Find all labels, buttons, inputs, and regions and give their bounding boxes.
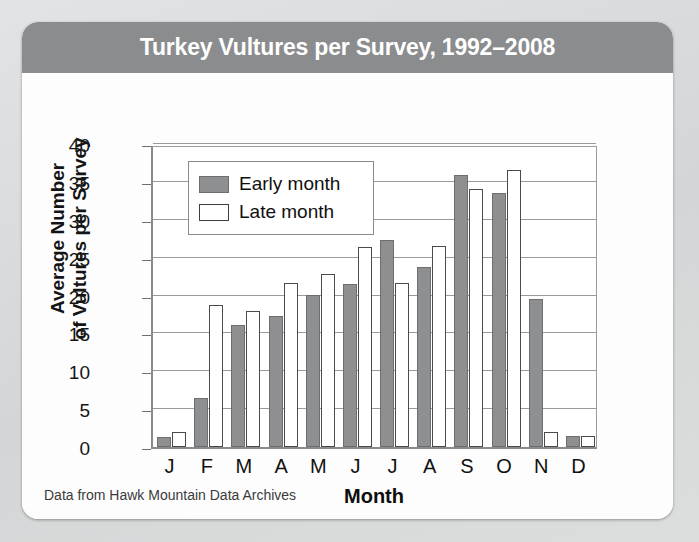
y-axis-title: Average Number of Vultures per Survey	[32, 73, 106, 403]
y-axis-tick-label: 40	[48, 135, 90, 157]
bar-group	[376, 147, 413, 447]
x-axis-tick-label: M	[300, 455, 336, 478]
bar-early-N-10	[529, 299, 543, 447]
y-axis-tick-label: 20	[48, 287, 90, 309]
y-axis-tick-label: 15	[48, 324, 90, 346]
bar-late-J-6	[395, 283, 409, 447]
bar-early-O-9	[492, 193, 506, 447]
y-axis-tick-label: 0	[48, 438, 90, 460]
y-axis-tick-mark	[142, 335, 151, 336]
x-axis-tick-label: S	[449, 455, 485, 478]
y-axis-tick-label: 10	[48, 362, 90, 384]
bar-late-D-11	[581, 436, 595, 447]
source-note: Data from Hawk Mountain Data Archives	[44, 487, 296, 503]
y-axis-tick-label: 5	[48, 400, 90, 422]
x-axis-tick-label: D	[560, 455, 596, 478]
bar-group	[153, 147, 190, 447]
bar-group	[562, 147, 599, 447]
plot-area: Early month Late month	[151, 146, 597, 449]
y-axis-tick-label: 30	[48, 211, 90, 233]
bar-group	[450, 147, 487, 447]
bar-early-A-3	[269, 316, 283, 447]
bar-late-F-1	[209, 305, 223, 447]
y-axis-tick-label: 35	[48, 173, 90, 195]
bar-group	[525, 147, 562, 447]
bar-group	[413, 147, 450, 447]
y-axis-title-line1: Average Number	[47, 137, 69, 339]
y-axis-tick-label: 25	[48, 249, 90, 271]
x-axis-tick-label: A	[263, 455, 299, 478]
x-axis-tick-label: A	[412, 455, 448, 478]
bar-late-M-4	[321, 274, 335, 447]
y-axis-tick-mark	[142, 260, 151, 261]
y-axis-tick-mark	[142, 411, 151, 412]
bar-chart: Average Number of Vultures per Survey 05…	[22, 73, 673, 519]
bar-late-S-8	[469, 189, 483, 447]
y-axis-tick-mark	[142, 146, 151, 147]
late-month-swatch-icon	[199, 204, 229, 221]
y-axis-title-line2: of Vultures per Survey	[69, 137, 91, 339]
y-axis-tick-mark	[142, 222, 151, 223]
y-axis-tick-mark	[142, 449, 151, 450]
early-month-swatch-icon	[199, 176, 229, 193]
chart-card: Turkey Vultures per Survey, 1992–2008 Av…	[22, 22, 673, 519]
bar-early-D-11	[566, 436, 580, 447]
x-axis-tick-label: J	[337, 455, 373, 478]
x-axis-tick-label: N	[523, 455, 559, 478]
bar-late-J-5	[358, 247, 372, 447]
y-axis-tick-mark	[142, 373, 151, 374]
bar-early-M-4	[306, 295, 320, 447]
bar-late-N-10	[544, 432, 558, 447]
legend-item-early: Early month	[199, 170, 363, 198]
card-body: Average Number of Vultures per Survey 05…	[22, 73, 673, 519]
x-axis-tick-label: M	[226, 455, 262, 478]
bar-late-O-9	[507, 170, 521, 447]
x-axis-tick-label: J	[375, 455, 411, 478]
bar-early-J-6	[380, 240, 394, 447]
bar-early-J-0	[157, 437, 171, 447]
x-axis-tick-label: J	[152, 455, 188, 478]
bar-early-A-7	[417, 267, 431, 447]
bar-late-J-0	[172, 432, 186, 447]
gridline	[153, 143, 596, 144]
legend-label-early: Early month	[239, 173, 340, 195]
legend-label-late: Late month	[239, 201, 334, 223]
bar-late-A-7	[432, 246, 446, 447]
x-axis-tick-label: F	[189, 455, 225, 478]
bar-early-J-5	[343, 284, 357, 447]
y-axis-tick-mark	[142, 298, 151, 299]
bar-late-M-2	[246, 311, 260, 447]
page-title: Turkey Vultures per Survey, 1992–2008	[140, 34, 555, 61]
bar-early-M-2	[231, 325, 245, 447]
x-axis-tick-label: O	[486, 455, 522, 478]
bar-group	[488, 147, 525, 447]
card-header: Turkey Vultures per Survey, 1992–2008	[22, 22, 673, 73]
legend-item-late: Late month	[199, 198, 363, 226]
bar-early-F-1	[194, 398, 208, 447]
bar-late-A-3	[284, 283, 298, 447]
legend: Early month Late month	[188, 161, 374, 235]
y-axis-tick-mark	[142, 184, 151, 185]
bar-early-S-8	[454, 175, 468, 447]
